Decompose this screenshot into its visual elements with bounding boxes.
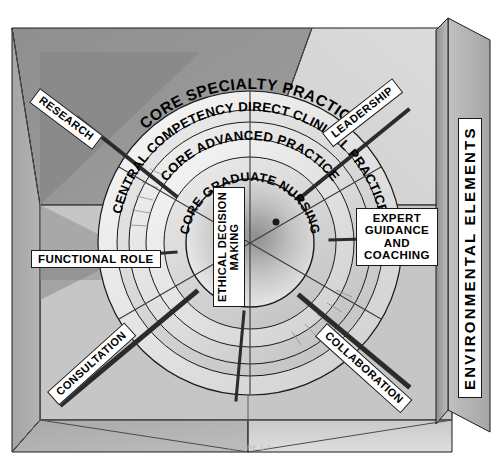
label-ethical-line2: MAKING <box>229 192 241 302</box>
label-expert-line2: GUIDANCE <box>364 224 430 236</box>
label-environmental-elements[interactable]: ENVIRONMENTAL ELEMENTS <box>458 118 482 398</box>
label-expert-guidance-and-coaching[interactable]: EXPERT GUIDANCE AND COACHING <box>356 208 438 266</box>
connector-node-clinical <box>273 219 280 226</box>
label-functional-role-text: FUNCTIONAL ROLE <box>38 253 154 265</box>
figure-caption: FIGURE 1-1 <box>0 444 500 454</box>
label-expert-line4: COACHING <box>364 249 430 261</box>
label-environmental-elements-text: ENVIRONMENTAL ELEMENTS <box>461 126 478 390</box>
label-ethical-decision-making[interactable]: ETHICAL DECISION MAKING <box>213 187 245 307</box>
label-expert-line1: EXPERT <box>364 212 430 224</box>
label-expert-line3: AND <box>364 237 430 249</box>
label-functional-role[interactable]: FUNCTIONAL ROLE <box>31 250 161 268</box>
figure-container: CORE SPECIALTY PRACTICE CENTRAL COMPETEN… <box>0 0 500 454</box>
